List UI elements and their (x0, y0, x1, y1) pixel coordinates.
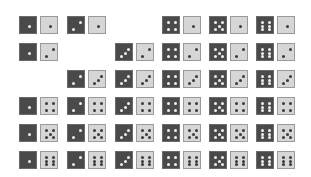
pip-dot (72, 109, 75, 112)
pip-dot (195, 109, 198, 112)
light-die-2 (40, 43, 58, 61)
pip-dot (214, 75, 217, 78)
pip-dot (282, 102, 285, 105)
dark-die-6 (256, 124, 274, 142)
dark-die-6 (256, 43, 274, 61)
pip-dot (268, 28, 271, 31)
pip-dot (127, 129, 130, 132)
pip-dot (120, 163, 123, 166)
pip-dot (268, 136, 271, 139)
light-die-4 (40, 97, 58, 115)
pip-dot (195, 136, 198, 139)
pip-dot (218, 52, 221, 55)
pip-dot (124, 106, 127, 109)
pip-dot (28, 133, 31, 136)
pip-dot (141, 109, 144, 112)
pip-dot (235, 129, 238, 132)
pip-dot (174, 55, 177, 58)
dark-die-5 (209, 16, 227, 34)
dark-die-5 (209, 97, 227, 115)
dark-die-4 (162, 124, 180, 142)
pip-dot (261, 48, 264, 51)
pip-dot (221, 102, 224, 105)
pip-dot (52, 163, 55, 166)
light-die-2 (183, 43, 201, 61)
pip-dot (268, 21, 271, 24)
pip-dot (242, 75, 245, 78)
pip-dot (282, 163, 285, 166)
pip-dot (214, 136, 217, 139)
pip-dot (141, 163, 144, 166)
pip-dot (167, 109, 170, 112)
pip-dot (167, 75, 170, 78)
pip-dot (28, 52, 31, 55)
pip-dot (214, 163, 217, 166)
dark-die-1 (19, 97, 37, 115)
pip-dot (45, 163, 48, 166)
pip-dot (188, 55, 191, 58)
pip-dot (52, 129, 55, 132)
pip-dot (214, 109, 217, 112)
pip-dot (268, 55, 271, 58)
pip-dot (286, 133, 289, 136)
pip-dot (188, 163, 191, 166)
pip-dot (195, 102, 198, 105)
pip-dot (221, 48, 224, 51)
light-die-5 (183, 124, 201, 142)
pip-dot (214, 21, 217, 24)
pip-dot (72, 82, 75, 85)
light-die-6 (277, 151, 295, 169)
pip-dot (286, 25, 289, 28)
pip-dot (261, 156, 264, 159)
light-die-4 (183, 97, 201, 115)
light-die-2 (230, 43, 248, 61)
pip-dot (174, 109, 177, 112)
dark-die-3 (115, 151, 133, 169)
pip-dot (282, 156, 285, 159)
pip-dot (127, 48, 130, 51)
pip-dot (127, 102, 130, 105)
pip-dot (79, 75, 82, 78)
pip-dot (93, 156, 96, 159)
pip-dot (268, 48, 271, 51)
pip-dot (97, 79, 100, 82)
pip-dot (49, 25, 52, 28)
dark-die-6 (256, 16, 274, 34)
pip-dot (268, 109, 271, 112)
pip-dot (242, 156, 245, 159)
pip-dot (235, 102, 238, 105)
pip-dot (100, 129, 103, 132)
dark-die-1 (19, 16, 37, 34)
pip-dot (120, 82, 123, 85)
pip-dot (214, 55, 217, 58)
pip-dot (289, 75, 292, 78)
pip-dot (127, 75, 130, 78)
pip-dot (93, 109, 96, 112)
light-die-3 (230, 70, 248, 88)
pip-dot (167, 48, 170, 51)
light-die-3 (88, 70, 106, 88)
pip-dot (167, 156, 170, 159)
pip-dot (289, 136, 292, 139)
pip-dot (141, 156, 144, 159)
pip-dot (100, 156, 103, 159)
light-die-1 (88, 16, 106, 34)
pip-dot (45, 109, 48, 112)
dark-die-1 (19, 124, 37, 142)
dark-die-3 (115, 43, 133, 61)
pip-dot (174, 28, 177, 31)
pip-dot (282, 109, 285, 112)
pip-dot (289, 102, 292, 105)
pip-dot (100, 75, 103, 78)
pip-dot (167, 102, 170, 105)
pip-dot (145, 133, 148, 136)
dark-die-6 (256, 151, 274, 169)
pip-dot (52, 156, 55, 159)
pip-dot (72, 28, 75, 31)
pip-dot (28, 25, 31, 28)
pip-dot (242, 129, 245, 132)
pip-dot (235, 55, 238, 58)
pip-dot (261, 163, 264, 166)
pip-dot (167, 21, 170, 24)
pip-dot (282, 129, 285, 132)
